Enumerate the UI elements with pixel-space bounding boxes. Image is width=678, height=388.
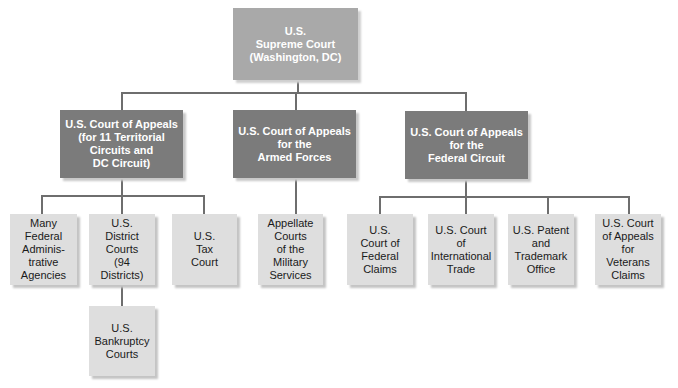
connector-appeals-bus <box>121 92 466 94</box>
connector-appeals0-down <box>121 178 123 196</box>
connector-lower-veterans <box>628 196 630 214</box>
connector-appeals-0 <box>121 92 123 110</box>
international-trade-box: U.S. Court of International Trade <box>428 214 494 285</box>
tax-court-box: U.S. Tax Court <box>172 214 237 285</box>
bankruptcy-courts-box: U.S. Bankruptcy Courts <box>89 306 155 376</box>
connector-lower-claims <box>379 196 381 214</box>
connector-lower-tax <box>203 195 205 214</box>
connector-appeals-2 <box>465 92 467 111</box>
connector-lower-trade <box>465 196 467 214</box>
military-appellate-courts-box: Appellate Courts of the Military Service… <box>258 214 323 285</box>
connector-lower-district <box>121 195 123 214</box>
district-courts-box: U.S. District Courts (94 Districts) <box>89 214 155 285</box>
patent-trademark-office-box: U.S. Patent and Trademark Office <box>508 214 574 285</box>
connector-lower2-bus <box>379 196 629 198</box>
court-of-appeals-federal-circuit-box: U.S. Court of Appeals for the Federal Ci… <box>405 111 528 179</box>
connector-appeals1-down <box>295 178 297 214</box>
connector-district-bankruptcy <box>121 285 123 306</box>
federal-agencies-box: Many Federal Adminis- trative Agencies <box>10 214 77 285</box>
veterans-claims-box: U.S. Court of Appeals for Veterans Claim… <box>595 214 661 285</box>
connector-lower-agencies <box>41 195 43 214</box>
connector-appeals2-down <box>465 179 467 197</box>
connector-lower-patent <box>547 196 549 214</box>
federal-claims-box: U.S. Court of Federal Claims <box>347 214 413 285</box>
connector-appeals-1 <box>295 92 297 110</box>
court-of-appeals-armed-forces-box: U.S. Court of Appeals for the Armed Forc… <box>233 110 356 178</box>
supreme-court-box: U.S. Supreme Court (Washington, DC) <box>233 8 358 80</box>
court-of-appeals-circuits-box: U.S. Court of Appeals (for 11 Territoria… <box>60 110 183 178</box>
